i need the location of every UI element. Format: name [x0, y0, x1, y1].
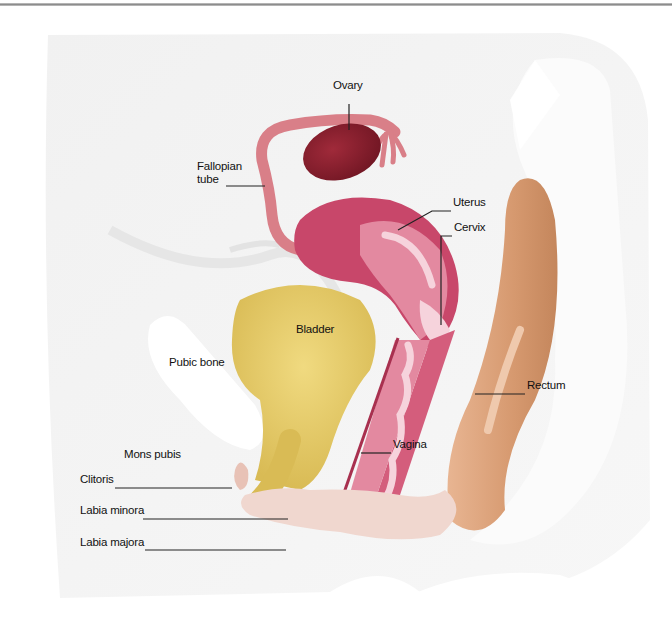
label-pubic-bone: Pubic bone — [169, 356, 225, 369]
label-clitoris: Clitoris — [80, 473, 114, 486]
label-mons-pubis: Mons pubis — [124, 448, 181, 461]
label-ovary: Ovary — [333, 79, 363, 92]
label-vagina: Vagina — [393, 438, 427, 451]
label-uterus: Uterus — [453, 196, 486, 209]
label-fallopian-tube: Fallopian tube — [197, 160, 242, 186]
label-labia-majora: Labia majora — [80, 536, 144, 549]
label-cervix: Cervix — [454, 221, 485, 234]
label-labia-minora: Labia minora — [80, 504, 144, 517]
label-bladder: Bladder — [296, 323, 334, 336]
label-rectum: Rectum — [527, 379, 565, 392]
